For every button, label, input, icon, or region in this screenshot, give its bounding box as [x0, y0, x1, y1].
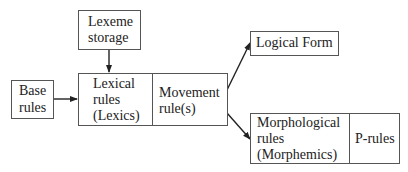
arrow-movement-to-logical — [227, 43, 250, 90]
lexeme-storage-line1: Lexeme — [88, 14, 133, 29]
morphological-prules-divider — [349, 113, 350, 164]
lexical-rules-line3: (Lexics) — [93, 108, 140, 123]
movement-rules-line2: rule(s) — [159, 101, 196, 116]
lexeme-storage-line2: storage — [88, 30, 128, 45]
lexical-rules-line1: Lexical — [93, 76, 135, 91]
base-rules-line2: rules — [19, 100, 46, 115]
lexical-movement-divider — [152, 73, 153, 126]
movement-rules-line1: Movement — [159, 85, 220, 100]
base-rules-line1: Base — [19, 83, 46, 98]
arrow-movement-to-morphological — [227, 113, 250, 139]
morphological-rules-line2: rules — [257, 131, 284, 146]
morphological-rules-line3: (Morphemics) — [257, 147, 337, 162]
lexical-rules-line2: rules — [93, 92, 120, 107]
morphological-rules-line1: Morphological — [257, 115, 340, 130]
logical-form-label: Logical Form — [256, 35, 333, 50]
p-rules-label: P-rules — [355, 131, 395, 146]
